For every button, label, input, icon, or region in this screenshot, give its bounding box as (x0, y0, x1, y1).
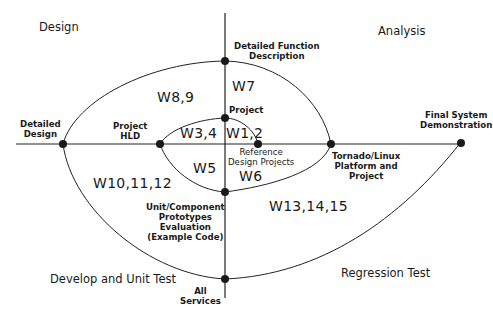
label-line: Project (229, 106, 263, 116)
label-tornado: Tornado/Linux Platform and Project (332, 152, 400, 182)
label-line: Project (332, 172, 400, 182)
label-project-hld: Project HLD (113, 122, 147, 142)
label-line: Design (20, 130, 61, 140)
week-w3-4: W3,4 (180, 125, 217, 141)
week-w13-15: W13,14,15 (269, 198, 348, 214)
week-w5: W5 (193, 160, 216, 176)
label-unit-component: Unit/Component Prototypes Evaluation (Ex… (146, 203, 225, 243)
node-final-system (457, 139, 465, 147)
label-detailed-design: Detailed Design (20, 120, 61, 140)
label-final-system: Final System Demonstration (420, 111, 492, 131)
node-project (221, 114, 229, 122)
label-line: HLD (113, 132, 147, 142)
label-line: (Example Code) (146, 233, 225, 243)
label-line: Demonstration (420, 121, 492, 131)
week-w6: W6 (239, 168, 262, 184)
label-line: Services (180, 297, 221, 307)
node-unit-component (221, 188, 229, 196)
label-line: Design Projects (228, 158, 294, 168)
week-w1-2: W1,2 (226, 125, 263, 141)
node-all-services (221, 275, 229, 283)
label-detailed-function: Detailed Function Description (234, 42, 320, 62)
quadrant-analysis: Analysis (378, 25, 425, 38)
quadrant-develop-unit-test: Develop and Unit Test (50, 273, 176, 286)
week-w8-9: W8,9 (157, 89, 194, 105)
label-project: Project (229, 106, 263, 116)
label-line: Description (234, 52, 320, 62)
node-detailed-design (59, 140, 67, 148)
quadrant-regression-test: Regression Test (341, 267, 430, 280)
week-w10-12: W10,11,12 (93, 175, 172, 191)
node-project-hld (156, 140, 164, 148)
label-reference-design: Reference Design Projects (228, 148, 294, 168)
quadrant-design: Design (39, 21, 79, 34)
node-tornado (327, 140, 335, 148)
week-w7: W7 (232, 78, 255, 94)
node-detailed-function (221, 57, 229, 65)
label-all-services: All Services (180, 287, 221, 307)
